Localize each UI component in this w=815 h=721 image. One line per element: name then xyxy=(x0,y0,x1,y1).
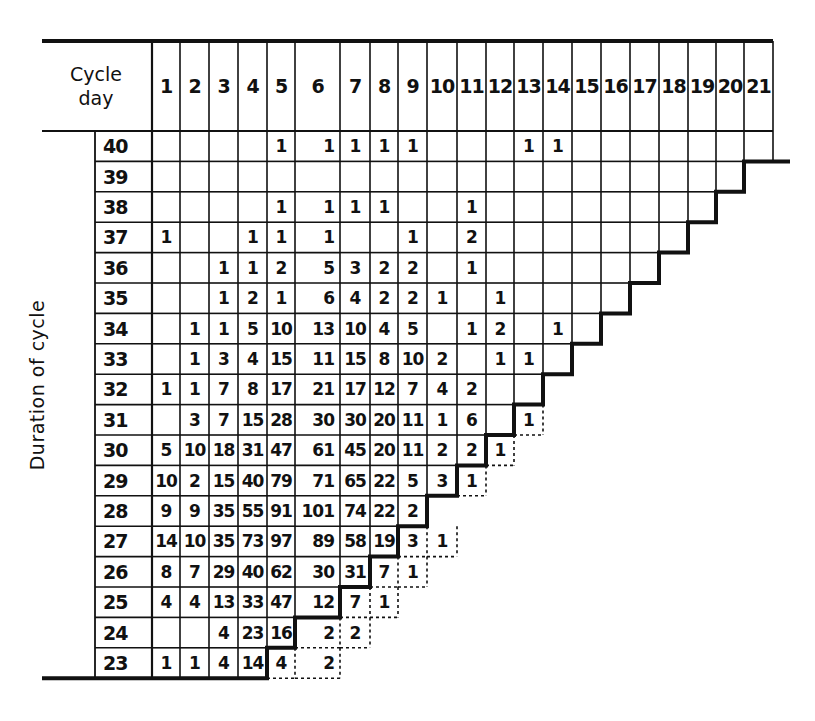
table-cell: 4 xyxy=(180,587,209,617)
table-cell: 79 xyxy=(267,465,295,495)
table-cell: 33 xyxy=(238,587,267,617)
table-cell: 61 xyxy=(295,435,340,465)
table-cell: 1 xyxy=(180,313,209,343)
dotted-cell: 1 xyxy=(457,465,486,495)
column-header: 10 xyxy=(427,41,457,131)
table-cell: 13 xyxy=(295,313,340,343)
column-header: 4 xyxy=(238,41,267,131)
table-cell: 1 xyxy=(427,283,457,313)
table-cell: 2 xyxy=(370,253,398,283)
row-header: 37 xyxy=(95,222,152,252)
column-header: 20 xyxy=(716,41,744,131)
table-cell: 7 xyxy=(180,557,209,587)
table-cell: 35 xyxy=(209,496,238,526)
table-cell: 15 xyxy=(238,405,267,435)
table-cell: 19 xyxy=(370,526,398,556)
table-cell: 4 xyxy=(340,283,370,313)
table-cell: 2 xyxy=(486,313,514,343)
table-cell: 1 xyxy=(398,222,427,252)
table-cell: 4 xyxy=(152,587,180,617)
table-cell: 6 xyxy=(295,283,340,313)
cycle-table: Cycle day Duration of cycle 123456789101… xyxy=(0,0,815,721)
dotted-cell: 1 xyxy=(514,405,543,435)
table-cell: 1 xyxy=(295,131,340,161)
table-cell: 73 xyxy=(238,526,267,556)
table-cell: 20 xyxy=(370,435,398,465)
table-cell: 101 xyxy=(295,496,340,526)
table-cell: 7 xyxy=(398,374,427,404)
table-cell: 2 xyxy=(398,283,427,313)
table-cell: 1 xyxy=(238,222,267,252)
table-cell: 1 xyxy=(267,131,295,161)
table-cell: 4 xyxy=(370,313,398,343)
table-cell: 3 xyxy=(340,253,370,283)
table-cell: 14 xyxy=(152,526,180,556)
row-header: 27 xyxy=(95,526,152,556)
table-cell: 89 xyxy=(295,526,340,556)
table-cell: 5 xyxy=(398,313,427,343)
table-cell: 5 xyxy=(295,253,340,283)
table-cell: 65 xyxy=(340,465,370,495)
table-cell: 1 xyxy=(152,374,180,404)
table-cell: 22 xyxy=(370,465,398,495)
table-cell: 4 xyxy=(427,374,457,404)
table-cell: 31 xyxy=(340,557,370,587)
table-cell: 1 xyxy=(370,192,398,222)
table-cell: 10 xyxy=(180,435,209,465)
table-cell: 97 xyxy=(267,526,295,556)
dotted-cell: 2 xyxy=(295,648,340,678)
table-cell: 1 xyxy=(209,313,238,343)
table-cell: 58 xyxy=(340,526,370,556)
table-cell: 2 xyxy=(427,344,457,374)
dotted-cell: 1 xyxy=(370,587,398,617)
table-cell: 1 xyxy=(209,253,238,283)
table-cell: 18 xyxy=(209,435,238,465)
table-cell: 1 xyxy=(370,131,398,161)
table-cell: 47 xyxy=(267,435,295,465)
table-cell: 1 xyxy=(340,192,370,222)
table-cell: 35 xyxy=(209,526,238,556)
table-cell: 1 xyxy=(457,313,486,343)
table-cell: 2 xyxy=(457,435,486,465)
table-cell: 11 xyxy=(398,405,427,435)
row-header: 23 xyxy=(95,648,152,678)
table-cell: 74 xyxy=(340,496,370,526)
table-cell: 11 xyxy=(398,435,427,465)
table-cell: 23 xyxy=(238,617,267,647)
table-cell: 15 xyxy=(209,465,238,495)
dotted-cell: 2 xyxy=(295,617,340,647)
table-cell: 1 xyxy=(457,192,486,222)
row-header: 34 xyxy=(95,313,152,343)
table-cell: 2 xyxy=(180,465,209,495)
row-header: 24 xyxy=(95,617,152,647)
table-cell: 15 xyxy=(267,344,295,374)
table-cell: 45 xyxy=(340,435,370,465)
table-cell: 1 xyxy=(295,192,340,222)
table-cell: 1 xyxy=(180,344,209,374)
column-header: 14 xyxy=(543,41,572,131)
table-cell: 2 xyxy=(238,283,267,313)
table-cell: 62 xyxy=(267,557,295,587)
table-cell: 10 xyxy=(267,313,295,343)
table-cell: 91 xyxy=(267,496,295,526)
table-cell: 3 xyxy=(427,465,457,495)
table-cell: 10 xyxy=(180,526,209,556)
table-cell: 12 xyxy=(295,587,340,617)
table-cell: 10 xyxy=(398,344,427,374)
table-cell: 1 xyxy=(152,222,180,252)
table-cell: 9 xyxy=(152,496,180,526)
column-header: 1 xyxy=(152,41,180,131)
table-cell: 14 xyxy=(238,648,267,678)
dotted-cell: 1 xyxy=(486,435,514,465)
dotted-cell: 7 xyxy=(370,557,398,587)
table-cell: 2 xyxy=(370,283,398,313)
table-cell: 2 xyxy=(457,222,486,252)
table-cell: 1 xyxy=(543,131,572,161)
column-header: 3 xyxy=(209,41,238,131)
table-cell: 2 xyxy=(457,374,486,404)
table-cell: 1 xyxy=(152,648,180,678)
table-cell: 1 xyxy=(486,283,514,313)
row-header: 39 xyxy=(95,161,152,191)
table-cell: 1 xyxy=(543,313,572,343)
table-cell: 2 xyxy=(267,253,295,283)
